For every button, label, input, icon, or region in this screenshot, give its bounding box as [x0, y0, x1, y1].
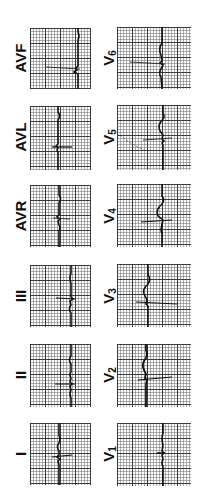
lead-label-v1: V1: [100, 424, 118, 484]
ecg-panel-avr: [30, 185, 91, 247]
ecg-trace-v3: [117, 264, 191, 327]
lead-label-avl: AVL: [12, 107, 30, 167]
lead-label-avf: AVF: [12, 28, 30, 88]
ecg-panel-iii: [30, 265, 91, 327]
ecg-trace-v1: [117, 423, 191, 486]
ecg-panel-v6: [117, 27, 191, 89]
ecg-trace-v6: [117, 27, 191, 89]
ecg-trace-i: [30, 423, 91, 485]
ecg-panel-v3: [117, 264, 191, 327]
lead-label-v3: V3: [100, 266, 118, 326]
ecg-trace-avf: [30, 28, 91, 89]
lead-label-ii: II: [12, 345, 30, 405]
lead-label-i: I: [12, 424, 30, 484]
ecg-panel-v5: [117, 105, 191, 170]
ecg-panel-i: [30, 423, 91, 485]
ecg-panel-v4: [117, 184, 191, 247]
lead-label-v4: V4: [100, 186, 118, 246]
ecg-panel-v1: [117, 423, 191, 486]
ecg-trace-ii: [30, 344, 91, 407]
lead-label-v6: V6: [100, 28, 118, 88]
ecg-trace-iii: [30, 265, 91, 327]
ecg-panel-v2: [117, 344, 191, 407]
ecg-trace-avr: [30, 185, 91, 247]
ecg-panel-avl: [30, 106, 91, 170]
lead-label-v2: V2: [100, 345, 118, 405]
ecg-panel-ii: [30, 344, 91, 407]
ecg-trace-v4: [117, 184, 191, 247]
lead-label-iii: III: [12, 266, 30, 326]
ecg-panel-avf: [30, 28, 91, 89]
lead-label-v5: V5: [100, 107, 118, 167]
ecg-trace-v2: [117, 344, 191, 407]
ecg-trace-avl: [30, 106, 91, 170]
ecg-trace-v5: [117, 105, 191, 170]
lead-label-avr: AVR: [12, 186, 30, 246]
